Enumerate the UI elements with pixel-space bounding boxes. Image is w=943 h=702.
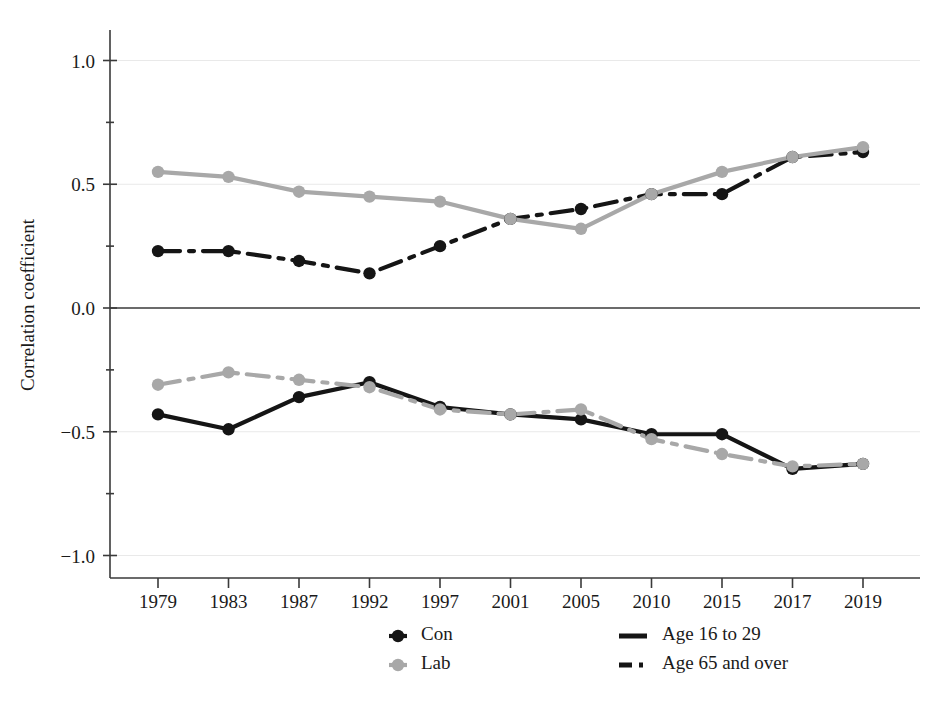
x-tick-label: 2005	[562, 591, 600, 612]
data-point	[222, 366, 234, 378]
data-point	[152, 408, 164, 420]
data-point	[857, 458, 869, 470]
x-tick-label: 1979	[139, 591, 177, 612]
y-tick-label: 0.5	[71, 174, 95, 195]
data-point	[716, 166, 728, 178]
data-point	[152, 379, 164, 391]
data-point	[786, 460, 798, 472]
x-tick-label: 1987	[280, 591, 318, 612]
x-tick-label: 2010	[633, 591, 671, 612]
data-point	[222, 245, 234, 257]
data-point	[293, 391, 305, 403]
data-point	[222, 171, 234, 183]
legend-label-lab: Lab	[421, 652, 451, 673]
y-tick-label: 1.0	[71, 51, 95, 72]
y-tick-label: −0.5	[61, 422, 95, 443]
data-point	[575, 203, 587, 215]
data-point	[575, 403, 587, 415]
y-axis-title: Correlation coefficient	[17, 218, 38, 391]
legend-label-age-16-29: Age 16 to 29	[662, 623, 761, 644]
data-point	[152, 166, 164, 178]
data-point	[293, 255, 305, 267]
data-point	[575, 223, 587, 235]
x-tick-label: 2019	[844, 591, 882, 612]
x-tick-label: 1983	[210, 591, 248, 612]
data-point	[645, 433, 657, 445]
x-tick-label: 2017	[774, 591, 812, 612]
legend-label-con: Con	[421, 623, 453, 644]
data-point	[645, 188, 657, 200]
data-point	[434, 195, 446, 207]
data-point	[857, 141, 869, 153]
legend-label-age-65-over: Age 65 and over	[662, 652, 789, 673]
data-point	[293, 185, 305, 197]
data-point	[363, 190, 375, 202]
x-tick-label: 1992	[351, 591, 389, 612]
data-point	[434, 240, 446, 252]
data-point	[363, 267, 375, 279]
data-point	[716, 448, 728, 460]
y-tick-label: 0.0	[71, 298, 95, 319]
x-tick-label: 2001	[492, 591, 530, 612]
data-point	[504, 213, 516, 225]
x-tick-label: 2015	[703, 591, 741, 612]
data-point	[786, 151, 798, 163]
chart-figure: 1.00.50.0−0.5−1.0 1979198319871992199720…	[0, 0, 943, 702]
data-point	[504, 408, 516, 420]
data-point	[434, 403, 446, 415]
data-point	[716, 188, 728, 200]
y-tick-label: −1.0	[61, 546, 95, 567]
data-point	[716, 428, 728, 440]
data-point	[152, 245, 164, 257]
correlation-line-chart: 1.00.50.0−0.5−1.0 1979198319871992199720…	[0, 0, 943, 702]
data-point	[222, 423, 234, 435]
data-point	[293, 374, 305, 386]
x-tick-label: 1997	[421, 591, 459, 612]
data-point	[363, 381, 375, 393]
